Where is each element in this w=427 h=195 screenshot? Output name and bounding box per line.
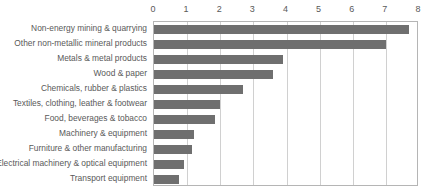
bar	[154, 85, 243, 94]
bar	[154, 25, 409, 34]
x-axis-tick-labels: 012345678	[0, 4, 427, 18]
x-tick-label: 0	[150, 4, 155, 15]
bar	[154, 115, 215, 124]
bar	[154, 145, 192, 154]
y-axis-category-labels: Non-energy mining & quarryingOther non-m…	[0, 21, 150, 186]
gridline	[386, 22, 387, 185]
x-tick-label: 1	[184, 4, 189, 15]
bar	[154, 160, 184, 169]
category-label: Food, beverages & tobacco	[45, 111, 147, 126]
x-tick-label: 6	[349, 4, 354, 15]
category-label: Transport equipment	[70, 171, 147, 186]
x-tick-label: 3	[250, 4, 255, 15]
category-label: Machinery & equipment	[59, 126, 147, 141]
x-tick-label: 4	[283, 4, 288, 15]
category-label: Metals & metal products	[57, 51, 147, 66]
bar	[154, 175, 179, 184]
plot-area	[153, 21, 418, 186]
bar	[154, 40, 386, 49]
category-label: Wood & paper	[94, 66, 147, 81]
category-label: Non-energy mining & quarrying	[31, 21, 147, 36]
bar-chart: 012345678 Non-energy mining & quarryingO…	[0, 0, 427, 195]
category-label: Furniture & other manufacturing	[29, 141, 147, 156]
category-label: Other non-metallic mineral products	[14, 36, 147, 51]
x-tick-label: 8	[415, 4, 420, 15]
x-tick-label: 5	[316, 4, 321, 15]
bar	[154, 55, 283, 64]
x-tick-label: 7	[382, 4, 387, 15]
bar	[154, 70, 273, 79]
bar	[154, 100, 220, 109]
category-label: Textiles, clothing, leather & footwear	[13, 96, 147, 111]
category-label: Electrical machinery & optical equipment	[0, 156, 147, 171]
category-label: Chemicals, rubber & plastics	[41, 81, 147, 96]
bar	[154, 130, 194, 139]
x-tick-label: 2	[217, 4, 222, 15]
